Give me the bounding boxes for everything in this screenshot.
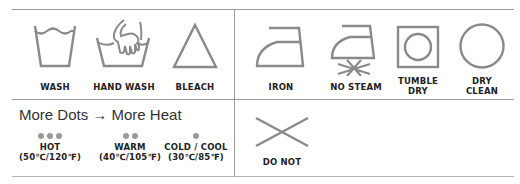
dry-clean-label: DRY CLEAN bbox=[452, 76, 512, 96]
warm-label-text: WARM bbox=[96, 142, 164, 152]
warm-label: WARM (40℃/105℉) bbox=[96, 142, 164, 162]
wash-tub-icon bbox=[31, 22, 79, 70]
hand-wash-label: HAND WASH bbox=[92, 82, 156, 92]
dot-icon bbox=[56, 133, 62, 139]
tumble-dry-symbol bbox=[396, 25, 440, 69]
hand-wash-icon bbox=[94, 16, 154, 70]
wash-symbol bbox=[30, 22, 80, 70]
tumble-dry-label: TUMBLE DRY bbox=[388, 76, 448, 96]
bleach-label: BLEACH bbox=[165, 82, 225, 92]
dry-clean-circle-icon bbox=[458, 22, 506, 70]
hot-label-text: HOT bbox=[18, 142, 82, 152]
heat-legend-title: More Dots → More Heat bbox=[19, 106, 182, 123]
hot-dots bbox=[20, 133, 80, 139]
dry-clean-symbol bbox=[458, 22, 506, 70]
cross-x-icon bbox=[254, 116, 310, 148]
bleach-triangle-icon bbox=[171, 22, 219, 70]
middle-divider bbox=[12, 99, 514, 100]
tumble-dry-label-line2: DRY bbox=[388, 86, 448, 96]
dry-clean-label-line2: CLEAN bbox=[452, 86, 512, 96]
iron-label: IRON bbox=[251, 82, 311, 92]
tumble-dry-icon bbox=[396, 25, 440, 69]
do-not-symbol bbox=[254, 116, 310, 148]
iron-icon bbox=[255, 24, 307, 68]
cold-cool-temp: (30℃/85℉) bbox=[160, 152, 232, 162]
cold-cool-label: COLD / COOL (30℃/85℉) bbox=[160, 142, 232, 162]
bleach-symbol bbox=[170, 22, 220, 70]
do-not-label: DO NOT bbox=[252, 157, 312, 167]
hot-label: HOT (50℃/120℉) bbox=[18, 142, 82, 162]
iron-symbol bbox=[255, 24, 307, 68]
cold-dots bbox=[166, 133, 226, 139]
dot-icon bbox=[132, 133, 138, 139]
no-steam-label: NO STEAM bbox=[323, 82, 389, 92]
dot-icon bbox=[123, 133, 129, 139]
no-steam-iron-icon bbox=[330, 24, 382, 76]
dot-icon bbox=[193, 133, 199, 139]
wash-label: WASH bbox=[25, 82, 85, 92]
warm-temp: (40℃/105℉) bbox=[96, 152, 164, 162]
hand-wash-symbol bbox=[94, 16, 154, 70]
tumble-dry-label-line1: TUMBLE bbox=[388, 76, 448, 86]
hot-temp: (50℃/120℉) bbox=[18, 152, 82, 162]
warm-dots bbox=[100, 133, 160, 139]
dot-icon bbox=[47, 133, 53, 139]
no-steam-symbol bbox=[330, 24, 382, 76]
top-divider bbox=[12, 9, 514, 10]
cold-cool-label-text: COLD / COOL bbox=[160, 142, 232, 152]
column-divider bbox=[234, 9, 235, 177]
dry-clean-label-line1: DRY bbox=[452, 76, 512, 86]
bottom-divider bbox=[12, 176, 514, 177]
dot-icon bbox=[38, 133, 44, 139]
